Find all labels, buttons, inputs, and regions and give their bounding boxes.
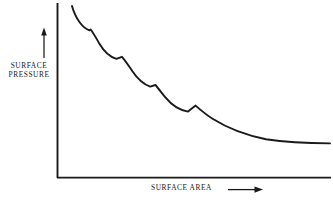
figure-container: SURFACE PRESSURE SURFACE AREA [0, 0, 333, 207]
y-axis-label: SURFACE PRESSURE [3, 61, 55, 79]
right-arrow-icon [228, 187, 263, 193]
y-axis-label-line1: SURFACE [3, 61, 55, 70]
x-axis-label: SURFACE AREA [151, 183, 223, 192]
up-arrow-icon [41, 28, 47, 59]
y-axis-label-line2: PRESSURE [3, 70, 55, 79]
isotherm-plot [0, 0, 333, 207]
isotherm-curve-path [72, 6, 330, 143]
